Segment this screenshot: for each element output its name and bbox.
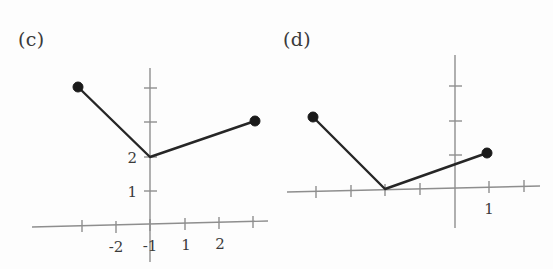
graph-curve-c <box>78 87 255 157</box>
panel-d: (d) 1 <box>275 0 553 269</box>
figure-root: (c) -2 -1 1 <box>0 0 553 269</box>
x-tick-label-neg2-c: -2 <box>109 238 124 256</box>
endpoint-dot-right-d <box>482 148 492 158</box>
endpoint-dot-left-c <box>73 82 83 92</box>
panel-c-plot: -2 -1 1 2 1 2 <box>0 0 275 269</box>
endpoint-dot-right-c <box>250 116 260 126</box>
panel-c: (c) -2 -1 1 <box>0 0 275 269</box>
panel-d-plot: 1 <box>275 0 553 269</box>
y-tick-label-1-c: 1 <box>127 183 137 201</box>
endpoint-dot-left-d <box>308 112 318 122</box>
x-tick-label-1-d: 1 <box>484 200 494 218</box>
x-tick-label-neg1-c: -1 <box>143 237 158 255</box>
x-tick-label-1-c: 1 <box>181 236 191 254</box>
x-tick-label-2-c: 2 <box>215 235 225 253</box>
x-axis-line-d <box>287 186 540 192</box>
graph-curve-d <box>313 117 487 189</box>
y-tick-label-2-c: 2 <box>127 149 137 167</box>
